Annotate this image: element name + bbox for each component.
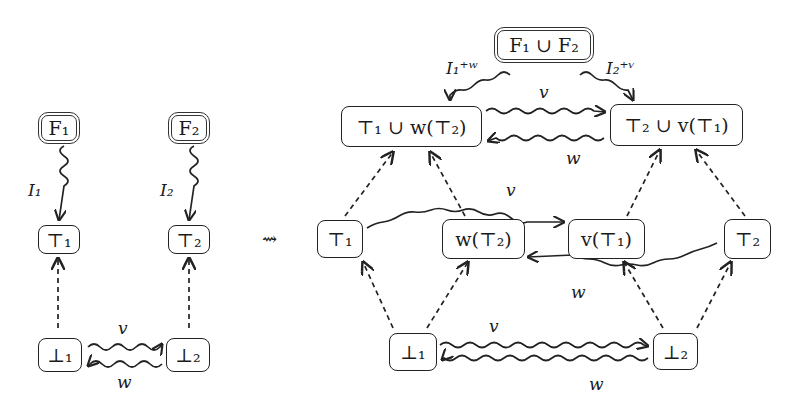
label-mid-w: w [571,282,586,302]
label-top-w: w [566,148,581,168]
label-I2: I₂ [160,180,174,200]
label-I1w: I₁⁺ʷ [446,58,478,78]
node-T1-union-wT2: ⊤₁ ∪ w(⊤₂) [341,106,482,147]
node-vT1: v(⊤₁) [568,219,645,259]
node-T2-union-vT1: ⊤₂ ∪ v(⊤₁) [610,104,743,146]
node-T2-right: ⊤₂ [724,219,771,259]
label-I1: I₁ [28,180,42,200]
node-F1: F₁ [38,112,80,144]
edge-top-v [486,109,605,114]
edge-w-left [88,361,162,367]
node-F1-union-F2: F₁ ∪ F₂ [494,27,594,63]
node-wT2: w(⊤₂) [442,219,525,259]
node-F2: F₂ [168,112,210,144]
node-T2: ⊤₂ [168,225,210,254]
edge-bot-w [442,356,648,361]
node-B1: ⊥₁ [38,338,82,372]
edge-bot-v [440,343,648,348]
node-T1: ⊤₁ [38,225,80,254]
label-bot-w: w [589,374,604,394]
label-mid-v: v [506,180,516,200]
edge-I2 [189,146,198,220]
transform-arrow: ⇝ [262,228,277,249]
edge-top-w [488,136,604,142]
edge-I1 [59,146,68,220]
node-B1-right: ⊥₁ [389,333,437,371]
node-B2: ⊥₂ [166,338,210,372]
label-bot-v: v [489,316,499,336]
label-v-left: v [118,318,128,338]
node-T1-right: ⊤₁ [317,220,363,258]
label-top-v: v [539,82,549,102]
edge-v-left [88,344,162,350]
label-w-left: w [117,372,132,392]
node-B2-right: ⊥₂ [653,333,698,370]
label-I2v: I₂⁺ᵛ [606,58,635,78]
